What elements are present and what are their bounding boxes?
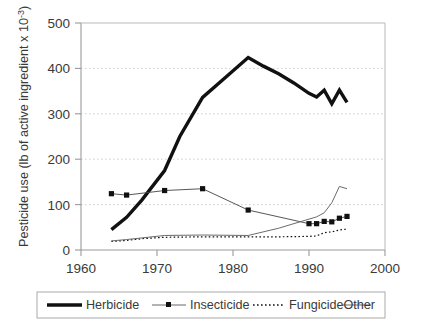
y-axis-title-main: Pesticide use (lb of active ingredient x… — [17, 18, 31, 247]
data-point-marker — [329, 219, 334, 224]
data-point-marker — [246, 207, 251, 212]
x-tick-labels: 1960 1970 1980 1990 2000 — [66, 261, 400, 276]
pesticide-use-line-chart: 500 400 300 200 100 0 1960 1970 1980 199… — [0, 0, 421, 325]
x-tick-label-2000: 2000 — [370, 261, 400, 276]
x-axis-ticks — [81, 250, 385, 256]
legend-swatch-insecticide-marker — [166, 302, 171, 307]
y-tick-label-500: 500 — [47, 16, 70, 31]
data-point-marker — [322, 219, 327, 224]
x-tick-label-1990: 1990 — [294, 261, 324, 276]
data-point-marker — [314, 221, 319, 226]
data-point-marker — [306, 221, 311, 226]
data-point-marker — [162, 188, 167, 193]
y-tick-label-300: 300 — [47, 107, 70, 122]
data-point-marker — [124, 192, 129, 197]
y-axis-title: Pesticide use (lb of active ingredient x… — [16, 6, 31, 247]
legend: Herbicide Insecticide Fungicide Other — [37, 292, 385, 318]
y-tick-label-200: 200 — [47, 152, 70, 167]
y-axis-title-exponent: -3 — [16, 10, 26, 18]
x-tick-label-1970: 1970 — [142, 261, 172, 276]
y-tick-label-100: 100 — [47, 198, 70, 213]
legend-label-other[interactable]: Other — [344, 298, 376, 312]
y-tick-label-400: 400 — [47, 61, 70, 76]
data-point-marker — [200, 186, 205, 191]
y-axis-ticks — [75, 23, 81, 250]
data-point-marker — [344, 214, 349, 219]
data-point-marker — [109, 191, 114, 196]
y-tick-labels: 500 400 300 200 100 0 — [47, 16, 70, 258]
legend-label-herbicide[interactable]: Herbicide — [86, 298, 139, 312]
legend-label-insecticide[interactable]: Insecticide — [190, 298, 250, 312]
x-tick-label-1980: 1980 — [218, 261, 248, 276]
chart-svg: 500 400 300 200 100 0 1960 1970 1980 199… — [0, 0, 421, 325]
x-tick-label-1960: 1960 — [66, 261, 96, 276]
legend-label-fungicide[interactable]: Fungicide — [289, 298, 344, 312]
data-point-marker — [337, 216, 342, 221]
y-axis-title-close: ) — [17, 6, 31, 10]
y-tick-label-0: 0 — [62, 243, 70, 258]
